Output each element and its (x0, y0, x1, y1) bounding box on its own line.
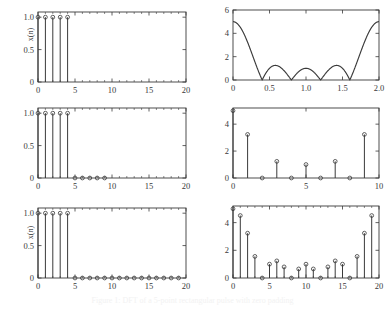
svg-text:1.5: 1.5 (337, 83, 348, 93)
svg-text:0: 0 (30, 173, 34, 183)
svg-text:4: 4 (225, 119, 230, 129)
svg-text:10: 10 (108, 181, 117, 191)
svg-text:0: 0 (30, 77, 34, 87)
svg-text:2: 2 (225, 146, 229, 156)
svg-text:1.0: 1.0 (23, 208, 34, 218)
chart-panel-top-left: 0510152000.51.0 x(n) (0, 0, 193, 105)
svg-text:1.0: 1.0 (23, 108, 34, 118)
svg-text:10: 10 (302, 281, 311, 291)
svg-text:0: 0 (225, 173, 229, 183)
svg-text:15: 15 (145, 85, 154, 95)
svg-text:0: 0 (225, 75, 229, 85)
svg-text:10: 10 (108, 281, 117, 291)
svg-text:4: 4 (225, 28, 230, 38)
svg-text:4: 4 (225, 218, 230, 228)
chart-panel-middle-right: 0510024 |X(k)| (193, 100, 385, 200)
svg-text:10: 10 (108, 85, 117, 95)
svg-text:0: 0 (231, 281, 235, 291)
svg-text:0: 0 (30, 273, 34, 283)
svg-text:2.0: 2.0 (374, 83, 385, 93)
svg-text:0: 0 (231, 181, 235, 191)
svg-text:0.5: 0.5 (23, 241, 34, 251)
axes-bottom-left: 0510152000.51.0 (0, 196, 193, 296)
svg-text:20: 20 (182, 181, 191, 191)
svg-text:0.5: 0.5 (264, 83, 275, 93)
axes-top-right: 00.51.01.52.00246 (193, 0, 385, 105)
svg-text:20: 20 (375, 281, 384, 291)
svg-text:0: 0 (36, 181, 40, 191)
figure-panel-grid: 0510152000.51.0 x(n) 00.51.01.52.00246 |… (0, 0, 385, 310)
svg-text:15: 15 (338, 281, 347, 291)
svg-text:20: 20 (182, 281, 191, 291)
svg-text:0: 0 (36, 85, 40, 95)
svg-text:1.0: 1.0 (301, 83, 312, 93)
svg-text:0: 0 (36, 281, 40, 291)
chart-panel-bottom-left: 0510152000.51.0 x(n) (0, 196, 193, 296)
axes-middle-right: 0510024 (193, 100, 385, 200)
svg-text:15: 15 (145, 181, 154, 191)
svg-text:0.5: 0.5 (23, 141, 34, 151)
figure-caption: Figure 1: DFT of a 5-point rectangular p… (0, 296, 385, 305)
axes-bottom-right: 05101520024 (193, 196, 385, 296)
axes-middle-left: 0510152000.51.0 (0, 100, 193, 200)
svg-text:0: 0 (225, 273, 229, 283)
chart-panel-bottom-right: 05101520024 |X(k)| (193, 196, 385, 296)
svg-text:20: 20 (182, 85, 191, 95)
svg-text:2: 2 (225, 52, 229, 62)
svg-text:5: 5 (267, 281, 271, 291)
svg-text:5: 5 (304, 181, 308, 191)
chart-panel-top-right: 00.51.01.52.00246 |X(ejw)| (193, 0, 385, 105)
svg-text:5: 5 (73, 85, 77, 95)
svg-text:6: 6 (225, 5, 229, 15)
svg-text:2: 2 (225, 245, 229, 255)
svg-text:10: 10 (375, 181, 384, 191)
svg-text:0: 0 (231, 83, 235, 93)
svg-text:5: 5 (73, 181, 77, 191)
chart-panel-middle-left: 0510152000.51.0 x(n) (0, 100, 193, 200)
svg-text:5: 5 (73, 281, 77, 291)
svg-text:15: 15 (145, 281, 154, 291)
y-axis-label-top-left: x(n) (26, 13, 35, 57)
